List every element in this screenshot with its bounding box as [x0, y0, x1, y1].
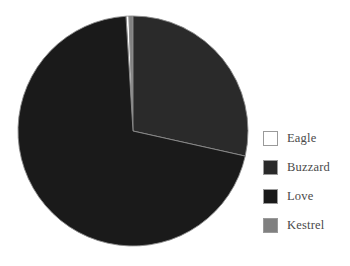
legend-item-kestrel[interactable]: Kestrel: [263, 211, 350, 240]
pie-svg: [0, 0, 262, 266]
legend-label-love: Love: [287, 190, 313, 203]
legend-swatch-kestrel: [263, 218, 278, 233]
legend-swatch-eagle: [263, 131, 278, 146]
legend-swatch-buzzard: [263, 160, 278, 175]
pie-plot-area: [0, 0, 262, 266]
legend-label-kestrel: Kestrel: [287, 219, 325, 232]
legend-item-buzzard[interactable]: Buzzard: [263, 153, 350, 182]
legend-item-love[interactable]: Love: [263, 182, 350, 211]
chart-legend: Eagle Buzzard Love Kestrel: [263, 124, 350, 240]
legend-item-eagle[interactable]: Eagle: [263, 124, 350, 153]
legend-swatch-love: [263, 189, 278, 204]
legend-label-buzzard: Buzzard: [287, 161, 330, 174]
pie-chart-figure: Eagle Buzzard Love Kestrel: [0, 0, 350, 266]
pie-slice-group: [18, 16, 248, 246]
legend-label-eagle: Eagle: [287, 132, 316, 145]
